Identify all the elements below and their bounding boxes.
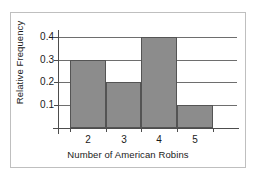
x-axis-line (53, 128, 239, 129)
bar-category-3 (106, 82, 141, 128)
y-tick-label-0.2: 0.2 (28, 77, 54, 87)
x-tick-mark-3-4 (141, 128, 142, 132)
x-tick-mark-4-5 (177, 128, 178, 132)
x-tick-mark-left-2 (70, 128, 71, 132)
y-tick-label-0.1: 0.1 (28, 100, 54, 110)
x-tick-label-5: 5 (183, 134, 207, 145)
plot-area (59, 30, 237, 128)
bar-category-5 (177, 105, 213, 128)
x-tick-mark-right-5 (213, 128, 214, 132)
histogram-figure: Relative Frequency 0.4 0.3 0.2 0.1 2 3 4… (0, 0, 256, 180)
y-axis-title: Relative Frequency (14, 8, 25, 118)
y-tick-label-0.4: 0.4 (28, 32, 54, 42)
x-tick-label-3: 3 (112, 134, 136, 145)
x-tick-label-2: 2 (76, 134, 100, 145)
y-tick-label-0.3: 0.3 (28, 55, 54, 65)
x-axis-title: Number of American Robins (22, 149, 234, 160)
bar-category-2 (70, 60, 106, 128)
x-tick-mark-2-3 (106, 128, 107, 132)
bar-category-4 (141, 37, 177, 128)
x-tick-label-4: 4 (147, 134, 171, 145)
